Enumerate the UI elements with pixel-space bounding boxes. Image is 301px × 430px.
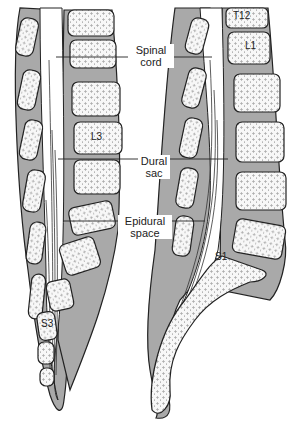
right-spine [148,8,287,418]
vertebra-label-s3: S3 [41,318,53,329]
label-spinal-cord: Spinal cord [128,44,174,68]
left-spine [14,8,122,410]
vertebra-label-l3: L3 [91,131,102,142]
vertebra-label-s1: S1 [215,251,227,262]
label-dural-sac: Dural sac [138,155,170,179]
label-spinal-cord-line1: Spinal [128,44,174,56]
label-epidural-space-line1: Epidural [118,215,172,227]
label-epidural-space-line2: space [118,227,172,239]
vertebra-label-t12: T12 [233,10,250,21]
label-epidural-space: Epidural space [118,215,172,239]
spine-diagram: Spinal cord Dural sac Epidural space L3 … [0,0,301,430]
label-spinal-cord-line2: cord [128,56,174,68]
label-dural-sac-line2: sac [138,167,170,179]
vertebra-label-l1: L1 [245,40,256,51]
label-dural-sac-line1: Dural [138,155,170,167]
